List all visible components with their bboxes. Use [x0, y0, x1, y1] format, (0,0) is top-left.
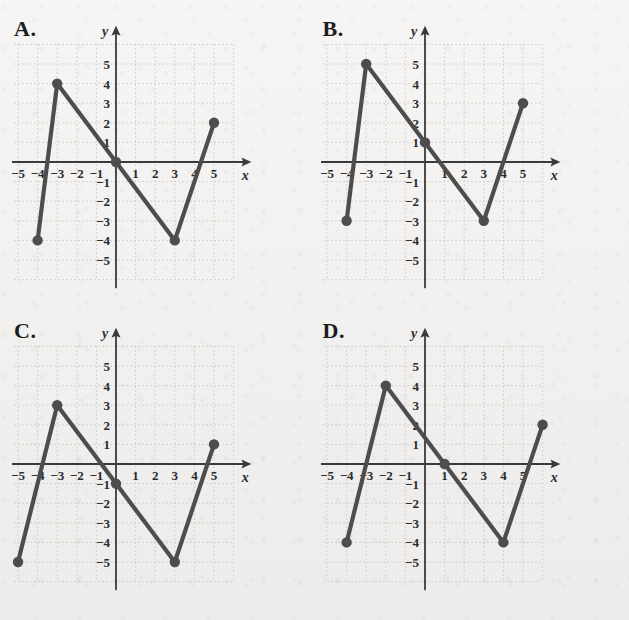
x-tick-label: −2: [378, 166, 392, 181]
data-point-marker: [209, 118, 219, 128]
coordinate-plane-d[interactable]: −5−4−3−2−11234554321−1−2−3−4−5xy: [321, 324, 577, 594]
y-tick-label: 5: [412, 359, 419, 374]
x-tick-label: −2: [70, 468, 84, 483]
y-tick-label: −4: [405, 535, 419, 550]
y-tick-label: −1: [405, 477, 419, 492]
y-tick-label: −2: [96, 194, 110, 209]
x-tick-label: −3: [359, 166, 373, 181]
x-tick-label: 4: [191, 468, 198, 483]
x-tick-label: −2: [378, 468, 392, 483]
y-tick-label: 1: [104, 437, 111, 452]
x-tick-label: −4: [339, 468, 353, 483]
data-point-marker: [380, 380, 390, 390]
y-tick-label: −2: [405, 194, 419, 209]
x-tick-label: 2: [460, 166, 467, 181]
y-tick-label: 4: [412, 77, 419, 92]
x-tick-label: 5: [211, 468, 218, 483]
data-point-marker: [517, 98, 527, 108]
data-point-marker: [439, 459, 449, 469]
data-point-marker: [13, 557, 23, 567]
x-tick-label: 3: [172, 166, 179, 181]
axis-arrowheads: [111, 26, 251, 167]
data-point-marker: [341, 216, 351, 226]
y-tick-label: 1: [412, 135, 419, 150]
y-tick-label: −4: [405, 233, 419, 248]
data-point-marker: [32, 235, 42, 245]
y-tick-label: −5: [405, 253, 419, 268]
y-tick-label: 3: [412, 398, 419, 413]
x-tick-label: 5: [211, 166, 218, 181]
data-point-marker: [341, 537, 351, 547]
y-axis-label: y: [100, 326, 109, 341]
y-tick-label: −1: [96, 175, 110, 190]
x-tick-label: 3: [172, 468, 179, 483]
data-point-marker: [170, 557, 180, 567]
axis-arrowheads: [111, 328, 251, 469]
y-tick-label: −5: [96, 555, 110, 570]
x-tick-label: 2: [152, 468, 159, 483]
y-tick-label: 4: [412, 379, 419, 394]
y-axis-label: y: [100, 24, 109, 39]
y-tick-label: 2: [104, 418, 111, 433]
x-tick-label: −3: [50, 166, 64, 181]
x-tick-label: 2: [460, 468, 467, 483]
data-point-marker: [111, 157, 121, 167]
graph-option-a[interactable]: A. −5−4−3−2−11234554321−1−2−3−4−5xy: [0, 0, 315, 310]
data-point-marker: [170, 235, 180, 245]
y-tick-label: −5: [405, 555, 419, 570]
axes: [321, 335, 553, 590]
y-tick-label: 4: [104, 77, 111, 92]
data-point-marker: [361, 59, 371, 69]
data-point-marker: [537, 420, 547, 430]
axis-arrowheads: [420, 26, 560, 167]
plot-svg-a: −5−4−3−2−11234554321−1−2−3−4−5xy: [12, 22, 268, 292]
data-point-marker: [52, 400, 62, 410]
data-point-marker: [111, 478, 121, 488]
x-axis-label: x: [549, 168, 557, 183]
y-tick-label: −1: [96, 477, 110, 492]
data-point-marker: [419, 137, 429, 147]
x-tick-label: 5: [519, 166, 526, 181]
plot-svg-c: −5−4−3−2−11234554321−1−2−3−4−5xy: [12, 324, 268, 594]
x-tick-label: −5: [321, 166, 334, 181]
y-tick-label: 3: [104, 398, 111, 413]
y-tick-label: −3: [405, 214, 419, 229]
graph-option-b[interactable]: B. −5−4−3−2−11234554321−1−2−3−4−5xy: [315, 0, 629, 310]
plot-svg-d: −5−4−3−2−11234554321−1−2−3−4−5xy: [321, 324, 577, 594]
y-tick-label: −3: [405, 516, 419, 531]
coordinate-plane-a[interactable]: −5−4−3−2−11234554321−1−2−3−4−5xy: [12, 22, 268, 292]
data-point-marker: [478, 216, 488, 226]
y-tick-label: 1: [412, 437, 419, 452]
y-tick-label: −1: [405, 175, 419, 190]
y-axis-label: y: [408, 24, 417, 39]
y-tick-label: −3: [96, 516, 110, 531]
x-tick-label: 3: [480, 166, 487, 181]
x-tick-label: −4: [31, 166, 45, 181]
y-tick-label: 4: [104, 379, 111, 394]
y-tick-label: 3: [104, 96, 111, 111]
data-point-marker: [209, 439, 219, 449]
coordinate-plane-c[interactable]: −5−4−3−2−11234554321−1−2−3−4−5xy: [12, 324, 268, 594]
x-axis-label: x: [549, 470, 557, 485]
graph-option-d[interactable]: D. −5−4−3−2−11234554321−1−2−3−4−5xy: [315, 310, 629, 620]
x-tick-label: −3: [50, 468, 64, 483]
y-tick-label: 2: [104, 116, 111, 131]
y-tick-label: −2: [405, 496, 419, 511]
x-tick-label: 2: [152, 166, 159, 181]
data-point-marker: [498, 537, 508, 547]
x-tick-label: 3: [480, 468, 487, 483]
coordinate-plane-b[interactable]: −5−4−3−2−11234554321−1−2−3−4−5xy: [321, 22, 577, 292]
y-tick-label: −3: [96, 214, 110, 229]
graph-option-c[interactable]: C. −5−4−3−2−11234554321−1−2−3−4−5xy: [0, 310, 315, 620]
y-tick-label: 3: [412, 96, 419, 111]
y-tick-label: −4: [96, 233, 110, 248]
x-tick-label: −5: [321, 468, 334, 483]
y-tick-label: 5: [104, 359, 111, 374]
y-axis-label: y: [408, 326, 417, 341]
x-tick-label: 4: [500, 468, 507, 483]
x-tick-label: −5: [12, 468, 25, 483]
x-tick-label: −5: [12, 166, 25, 181]
y-tick-label: 5: [412, 57, 419, 72]
x-axis-label: x: [241, 470, 249, 485]
axis-arrowheads: [420, 328, 560, 469]
